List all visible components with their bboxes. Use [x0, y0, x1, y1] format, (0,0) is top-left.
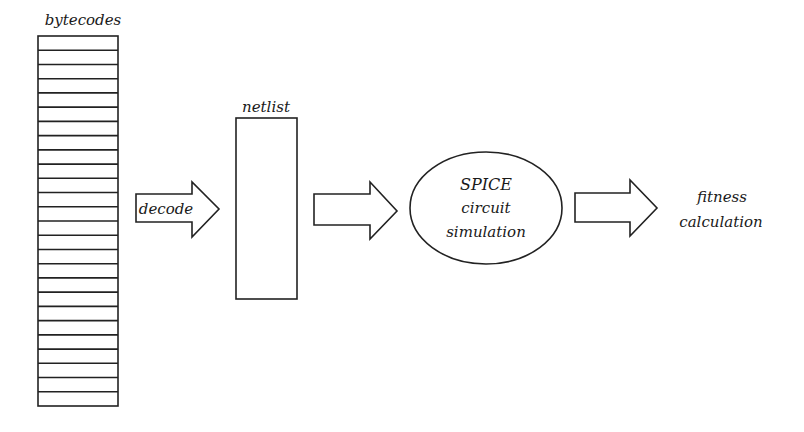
arrow-right-icon [314, 182, 397, 239]
spice-title: SPICE [460, 175, 512, 194]
fitness-calculation: fitness calculation [679, 188, 762, 231]
bytecodes-label: bytecodes [45, 11, 122, 29]
bytecodes-stack: bytecodes [38, 11, 122, 406]
fitness-line1: fitness [696, 188, 747, 206]
spice-line3: simulation [446, 223, 526, 241]
netlist-block: netlist [236, 98, 297, 299]
netlist-box [236, 118, 297, 299]
spice-simulation: SPICE circuit simulation [410, 152, 562, 264]
decode-arrow: decode [136, 182, 219, 237]
arrow-right-icon [575, 180, 657, 236]
decode-label: decode [139, 200, 194, 218]
fitness-line2: calculation [679, 213, 762, 231]
pipeline-diagram: bytecodes decode netlist SPICE circuit s… [0, 0, 804, 432]
netlist-label: netlist [242, 98, 291, 116]
spice-line2: circuit [461, 199, 511, 217]
